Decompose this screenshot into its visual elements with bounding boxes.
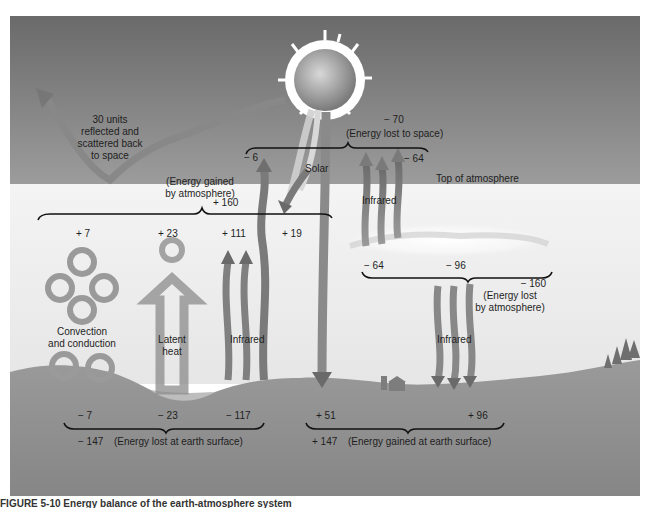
- loss-to-surface-value: − 96: [446, 260, 466, 272]
- surface-loss-latent: − 23: [158, 410, 178, 422]
- atmosphere-infrared-down-label: Infrared: [437, 334, 471, 346]
- gain-latent-value: + 23: [158, 228, 178, 240]
- gain-convection-value: + 7: [76, 228, 90, 240]
- atmosphere-gain-total: + 160: [213, 197, 238, 209]
- convection-label: Convection and conduction: [48, 326, 116, 350]
- surface-gain-label: (Energy gained at earth surface): [348, 436, 491, 448]
- surface-loss-label: (Energy lost at earth surface): [114, 436, 243, 448]
- space-atmosphere-infrared: − 64: [404, 153, 424, 165]
- gain-solar-value: + 19: [282, 228, 302, 240]
- loss-to-space-value: − 64: [364, 260, 384, 272]
- figure-caption: FIGURE 5-10 Energy balance of the earth-…: [0, 498, 650, 508]
- latent-heat-label: Latent heat: [158, 334, 186, 358]
- diagram-artwork: [0, 0, 650, 508]
- space-total: − 70: [384, 114, 404, 126]
- surface-gain-infrared: + 96: [468, 410, 488, 422]
- top-of-atmosphere-label: Top of atmosphere: [436, 173, 519, 185]
- surface-loss-infrared: − 117: [226, 410, 251, 422]
- gain-infrared-value: + 111: [222, 228, 246, 240]
- surface-loss-convection: − 7: [78, 410, 92, 422]
- surface-loss-total: − 147: [78, 436, 103, 448]
- space-atmosphere-direct: − 6: [244, 152, 258, 164]
- surface-infrared-label: Infrared: [230, 334, 264, 346]
- atmosphere-loss-total: − 160: [521, 278, 546, 290]
- space-total-label: (Energy lost to space): [346, 128, 443, 140]
- energy-balance-diagram: 30 units reflected and scattered back to…: [0, 0, 650, 508]
- solar-label: Solar: [305, 163, 328, 175]
- surface-gain-solar: + 51: [316, 410, 336, 422]
- reflected-label: 30 units reflected and scattered back to…: [77, 114, 142, 162]
- infrared-to-space-label: Infrared: [362, 195, 396, 207]
- atmosphere-loss-label: (Energy lost by atmosphere): [475, 290, 544, 314]
- surface-gain-total: + 147: [312, 436, 337, 448]
